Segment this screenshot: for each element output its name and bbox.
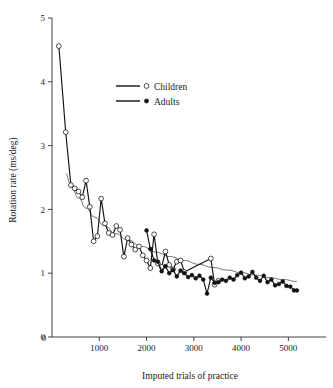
children-point <box>91 239 96 244</box>
children-point <box>129 242 134 247</box>
children-point <box>148 266 153 271</box>
adults-point <box>295 289 299 293</box>
rotation-rate-line-chart: 012345 010002000300040005000 Rotation ra… <box>0 0 333 388</box>
children-point <box>137 244 142 249</box>
x-tick-label: 1000 <box>90 343 109 353</box>
adults-point <box>182 271 186 275</box>
children-point <box>84 178 89 183</box>
adults-point <box>179 269 183 273</box>
adults-point <box>186 275 190 279</box>
adults-point <box>239 271 243 275</box>
children-point <box>178 258 183 263</box>
adults-point <box>258 279 262 283</box>
adults-point <box>213 281 217 285</box>
children-point <box>163 249 168 254</box>
adults-point <box>277 282 281 286</box>
adults-point <box>281 280 285 284</box>
adults-point <box>190 273 194 277</box>
children-point <box>87 204 92 209</box>
y-tick-label: 1 <box>41 268 46 278</box>
adults-point <box>156 260 160 264</box>
children-point <box>152 232 157 237</box>
adults-point <box>201 278 205 282</box>
adults-point <box>251 270 255 274</box>
adults-point <box>288 285 292 289</box>
children-point <box>110 233 115 238</box>
y-tick-label: 2 <box>41 205 46 215</box>
y-tick-label: 3 <box>41 141 46 151</box>
children-point <box>95 234 100 239</box>
y-tick-label: 5 <box>41 13 46 23</box>
adults-point <box>220 278 224 282</box>
adults-point <box>269 278 273 282</box>
x-tick-label: 3000 <box>185 343 204 353</box>
adults-point <box>247 274 251 278</box>
adults-point <box>148 247 152 251</box>
x-tick-label: 0 <box>42 333 47 343</box>
adults-point <box>228 276 232 280</box>
legend-label-children: Children <box>154 82 187 92</box>
x-tick-label: 4000 <box>232 343 251 353</box>
children-point <box>140 253 145 258</box>
adults-point <box>160 269 164 273</box>
children-point <box>121 254 126 259</box>
adults-point <box>171 268 175 272</box>
x-tick-label: 2000 <box>138 343 157 353</box>
adults-point <box>145 229 149 233</box>
x-axis-title: Imputed trials of practice <box>142 371 238 381</box>
y-tick-label: 4 <box>41 77 46 87</box>
adults-point <box>205 292 209 296</box>
x-tick-label: 5000 <box>279 343 298 353</box>
adults-point <box>194 276 198 280</box>
children-point <box>103 221 108 226</box>
legend-filled-circle-icon <box>144 99 148 103</box>
adults-point <box>224 279 228 283</box>
adults-point <box>262 274 266 278</box>
adults-point <box>266 280 270 284</box>
adults-point <box>232 278 236 282</box>
children-point <box>144 258 149 263</box>
children-point <box>208 256 213 261</box>
adults-point <box>167 271 171 275</box>
chart-background <box>0 0 333 388</box>
adults-point <box>217 280 221 284</box>
children-point <box>80 195 85 200</box>
children-point <box>99 196 104 201</box>
adults-point <box>285 284 289 288</box>
adults-point <box>209 276 213 280</box>
adults-point <box>273 283 277 287</box>
adults-point <box>152 259 156 263</box>
legend-label-adults: Adults <box>154 97 180 107</box>
children-point <box>76 189 81 194</box>
adults-point <box>254 276 258 280</box>
adults-point <box>243 276 247 280</box>
adults-point <box>175 274 179 278</box>
adults-point <box>235 273 239 277</box>
chart-figure: 012345 010002000300040005000 Rotation ra… <box>0 0 333 388</box>
children-point <box>118 227 123 232</box>
children-point <box>63 130 68 135</box>
children-point <box>114 224 119 229</box>
children-point <box>56 44 61 49</box>
y-axis-title: Rotation rate (ms/deg) <box>8 137 19 222</box>
legend-open-circle-icon <box>144 84 149 89</box>
adults-point <box>198 274 202 278</box>
children-point <box>125 236 130 241</box>
adults-point <box>164 264 168 268</box>
